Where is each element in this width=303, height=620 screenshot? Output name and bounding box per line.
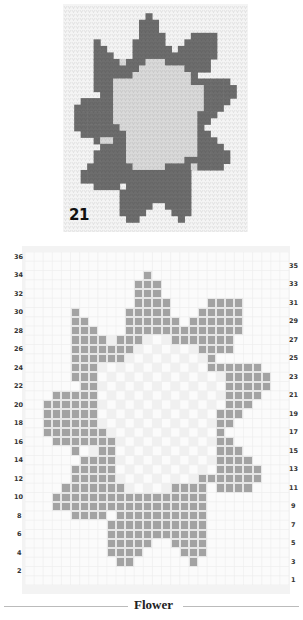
chart-cell-contrast	[134, 548, 143, 557]
chart-cell-contrast	[198, 474, 207, 483]
chart-cell-contrast	[89, 345, 98, 354]
chart-cell-contrast	[225, 363, 234, 372]
chart-cell-contrast	[43, 419, 52, 428]
chart-cell-main	[162, 335, 171, 344]
row-number-right: 29	[289, 317, 298, 325]
chart-cell-contrast	[71, 317, 80, 326]
chart-cell-contrast	[71, 409, 80, 418]
chart-cell-contrast	[52, 391, 61, 400]
chart-cell-contrast	[225, 456, 234, 465]
chart-cell-main	[134, 345, 143, 354]
chart-cell-contrast	[89, 493, 98, 502]
chart-cell-contrast	[243, 391, 252, 400]
row-number-left: 4	[17, 549, 22, 557]
chart-cell-contrast	[207, 317, 216, 326]
chart-cell-contrast	[134, 298, 143, 307]
chart-cell-main	[189, 437, 198, 446]
row-number-right: 23	[289, 373, 298, 381]
chart-cell-main	[116, 437, 125, 446]
chart-cell-contrast	[162, 520, 171, 529]
chart-cell-contrast	[234, 372, 243, 381]
chart-cell-main	[125, 483, 134, 492]
chart-cell-contrast	[262, 382, 271, 391]
chart-cell-contrast	[143, 539, 152, 548]
chart-cell-contrast	[234, 446, 243, 455]
chart-cell-contrast	[52, 437, 61, 446]
chart-cell-contrast	[243, 400, 252, 409]
chart-cell-contrast	[180, 520, 189, 529]
chart-cell-contrast	[152, 520, 161, 529]
chart-cell-contrast	[61, 483, 70, 492]
chart-cell-contrast	[125, 520, 134, 529]
chart-cell-main	[189, 382, 198, 391]
chart-cell-contrast	[152, 326, 161, 335]
chart-cell-contrast	[61, 437, 70, 446]
chart-cell-contrast	[198, 530, 207, 539]
chart-cell-contrast	[152, 317, 161, 326]
chart-cell-contrast	[98, 511, 107, 520]
chart-cell-contrast	[116, 557, 125, 566]
chart-cell-contrast	[216, 419, 225, 428]
chart-cell-contrast	[71, 493, 80, 502]
chart-cell-contrast	[80, 474, 89, 483]
caption-rule-right	[183, 606, 299, 607]
chart-cell-contrast	[234, 474, 243, 483]
chart-cell-contrast	[89, 437, 98, 446]
chart-cell-contrast	[243, 363, 252, 372]
chart-cell-main	[189, 400, 198, 409]
chart-cell-contrast	[71, 419, 80, 428]
chart-cell-main	[116, 382, 125, 391]
row-number-right: 27	[289, 336, 298, 344]
chart-cell-main	[180, 391, 189, 400]
chart-cell-main	[152, 345, 161, 354]
chart-cell-contrast	[116, 345, 125, 354]
chart-cell-contrast	[125, 557, 134, 566]
chart-cell-contrast	[189, 502, 198, 511]
chart-cell-contrast	[61, 502, 70, 511]
chart-cell-main	[143, 465, 152, 474]
chart-cell-main	[152, 400, 161, 409]
chart-cell-contrast	[89, 511, 98, 520]
chart-cell-contrast	[89, 391, 98, 400]
chart-cell-contrast	[152, 511, 161, 520]
chart-cell-main	[171, 400, 180, 409]
row-number-right: 9	[291, 502, 296, 510]
chart-cell-main	[134, 437, 143, 446]
chart-cell-main	[207, 400, 216, 409]
chart-cell-contrast	[98, 474, 107, 483]
chart-cell-contrast	[225, 345, 234, 354]
chart-cell-contrast	[171, 530, 180, 539]
row-number-right: 15	[289, 447, 298, 455]
row-number-right: 21	[289, 391, 298, 399]
chart-cell-contrast	[80, 382, 89, 391]
chart-cell-contrast	[162, 530, 171, 539]
chart-cell-contrast	[253, 465, 262, 474]
chart-cell-contrast	[80, 335, 89, 344]
chart-cell-contrast	[162, 511, 171, 520]
chart-cell-main	[116, 400, 125, 409]
chart-cell-contrast	[80, 326, 89, 335]
row-number-right: 3	[291, 558, 296, 566]
chart-cell-contrast	[234, 326, 243, 335]
chart-cell-main	[171, 345, 180, 354]
chart-cell-contrast	[189, 317, 198, 326]
row-number-left: 32	[14, 290, 23, 298]
chart-cell-contrast	[116, 520, 125, 529]
chart-cell-contrast	[71, 372, 80, 381]
chart-cell-contrast	[125, 539, 134, 548]
chart-cell-main	[207, 419, 216, 428]
chart-cell-main	[134, 474, 143, 483]
chart-cell-contrast	[225, 483, 234, 492]
chart-cell-main	[152, 382, 161, 391]
chart-cell-main	[143, 409, 152, 418]
knitting-chart: 3634323028262422201816141210864235333129…	[0, 244, 303, 594]
chart-cell-contrast	[253, 372, 262, 381]
chart-cell-contrast	[89, 502, 98, 511]
chart-cell-contrast	[143, 530, 152, 539]
chart-cell-contrast	[107, 474, 116, 483]
chart-cell-main	[216, 391, 225, 400]
chart-cell-contrast	[207, 354, 216, 363]
chart-cell-contrast	[180, 326, 189, 335]
chart-cell-main	[207, 382, 216, 391]
chart-cell-contrast	[125, 345, 134, 354]
